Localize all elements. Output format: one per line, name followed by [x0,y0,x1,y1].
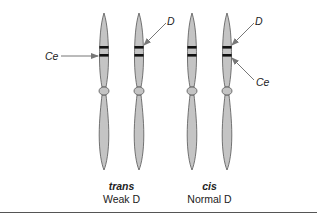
diagram-canvas: Ce D D Ce trans Weak D cis Normal D [0,0,317,218]
chromosome-trans-right [134,13,144,170]
chromosome-trans-left [99,13,109,170]
arrow-trans-d [144,23,166,45]
caption-trans-subtitle: Weak D [103,193,141,205]
caption-trans-title: trans [109,180,135,192]
label-trans-ce: Ce [45,50,59,62]
arrow-cis-d [232,23,254,45]
label-cis-d: D [255,15,263,27]
chromosome-cis-left [187,13,197,170]
caption-cis-title: cis [202,180,217,192]
arrow-cis-ce [232,58,254,80]
caption-cis-subtitle: Normal D [187,193,232,205]
chromosome-cis-right [222,13,232,170]
label-cis-ce: Ce [256,76,270,88]
label-trans-d: D [167,15,175,27]
